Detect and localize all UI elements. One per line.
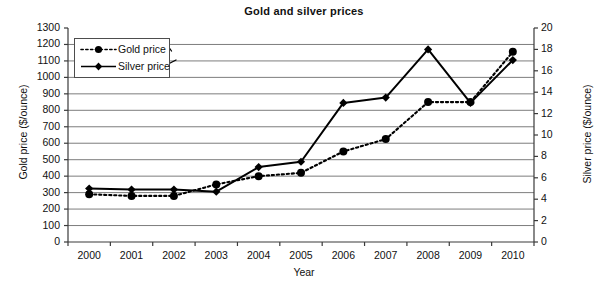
tick-label: 1300 bbox=[26, 21, 60, 33]
tick-label: 2008 bbox=[406, 249, 450, 261]
x-axis-ticks bbox=[68, 242, 534, 246]
chart-figure: Gold and silver prices Gold price ($/oun… bbox=[0, 0, 608, 288]
tick-label: 700 bbox=[26, 120, 60, 132]
tick-label: 2000 bbox=[67, 249, 111, 261]
tick-label: 100 bbox=[26, 219, 60, 231]
tick-label: 20 bbox=[541, 21, 569, 33]
tick-label: 0 bbox=[541, 235, 569, 247]
tick-label: 2003 bbox=[194, 249, 238, 261]
tick-label: 0 bbox=[26, 235, 60, 247]
tick-label: 16 bbox=[541, 64, 569, 76]
tick-label: 900 bbox=[26, 87, 60, 99]
tick-label: 14 bbox=[541, 85, 569, 97]
tick-label: 2004 bbox=[237, 249, 281, 261]
tick-label: 1100 bbox=[26, 54, 60, 66]
chart-legend: Gold price Silver price bbox=[74, 38, 170, 78]
tick-label: 8 bbox=[541, 149, 569, 161]
legend-item-silver-price: Silver price bbox=[78, 58, 170, 75]
tick-label: 2001 bbox=[110, 249, 154, 261]
legend-label-silver-price: Silver price bbox=[118, 60, 170, 72]
tick-label: 2007 bbox=[364, 249, 408, 261]
legend-swatch-silver-price bbox=[80, 58, 117, 75]
tick-label: 400 bbox=[26, 169, 60, 181]
tick-label: 18 bbox=[541, 42, 569, 54]
tick-label: 1000 bbox=[26, 70, 60, 82]
tick-label: 2010 bbox=[491, 249, 535, 261]
tick-label: 500 bbox=[26, 153, 60, 165]
tick-label: 6 bbox=[541, 171, 569, 183]
legend-label-gold-price: Gold price bbox=[118, 43, 166, 55]
tick-label: 200 bbox=[26, 202, 60, 214]
tick-label: 600 bbox=[26, 136, 60, 148]
tick-label: 1200 bbox=[26, 37, 60, 49]
tick-label: 800 bbox=[26, 103, 60, 115]
tick-label: 4 bbox=[541, 192, 569, 204]
tick-label: 2002 bbox=[152, 249, 196, 261]
tick-label: 2009 bbox=[448, 249, 492, 261]
legend-swatch-gold-price bbox=[80, 41, 117, 58]
legend-item-gold-price: Gold price bbox=[78, 41, 170, 58]
tick-label: 300 bbox=[26, 186, 60, 198]
tick-label: 10 bbox=[541, 128, 569, 140]
tick-label: 12 bbox=[541, 107, 569, 119]
tick-label: 2005 bbox=[279, 249, 323, 261]
tick-label: 2006 bbox=[321, 249, 365, 261]
tick-label: 2 bbox=[541, 214, 569, 226]
